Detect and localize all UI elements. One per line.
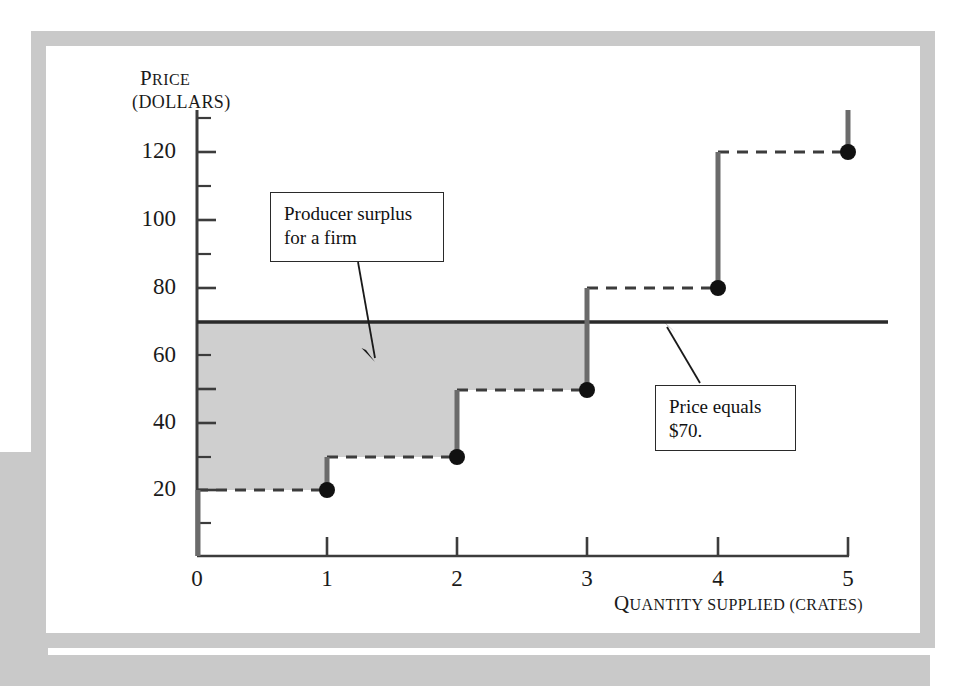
y-tick-label-60: 60 bbox=[128, 342, 176, 368]
y-axis-title-initial: P bbox=[140, 66, 152, 90]
y-tick-label-20: 20 bbox=[128, 476, 176, 502]
x-axis-title-initial: Q bbox=[614, 591, 630, 615]
x-tick-label-1: 1 bbox=[307, 566, 347, 592]
y-axis-title-rest: RICE bbox=[152, 71, 190, 88]
y-tick-label-80: 80 bbox=[128, 274, 176, 300]
marker-dot-q3 bbox=[579, 382, 595, 398]
x-tick-label-3: 3 bbox=[567, 566, 607, 592]
x-axis-ticks bbox=[327, 537, 848, 556]
y-tick-label-100: 100 bbox=[128, 206, 176, 232]
producer-surplus-shading bbox=[197, 322, 587, 490]
marker-dot-q2 bbox=[449, 449, 465, 465]
y-tick-label-120: 120 bbox=[128, 138, 176, 164]
y-tick-label-40: 40 bbox=[128, 409, 176, 435]
figure-page: PRICE (DOLLARS) QUANTITY SUPPLIED (CRATE… bbox=[0, 0, 980, 686]
callout-producer-surplus: Producer surplus for a firm bbox=[270, 192, 444, 262]
x-tick-label-4: 4 bbox=[698, 566, 738, 592]
callout-price-equals: Price equals $70. bbox=[655, 385, 796, 451]
marker-dot-q4 bbox=[710, 280, 726, 296]
x-axis-title: QUANTITY SUPPLIED (CRATES) bbox=[614, 591, 863, 616]
leader-price-equals bbox=[667, 327, 700, 383]
marker-dot-q5 bbox=[840, 144, 856, 160]
y-axis-title: PRICE bbox=[140, 66, 190, 91]
x-axis-title-rest: UANTITY SUPPLIED (CRATES) bbox=[630, 596, 863, 613]
x-tick-label-2: 2 bbox=[437, 566, 477, 592]
y-axis-units: (DOLLARS) bbox=[132, 92, 231, 113]
x-tick-label-5: 5 bbox=[828, 566, 868, 592]
x-tick-label-0: 0 bbox=[177, 566, 217, 592]
marker-dot-q1 bbox=[319, 482, 335, 498]
